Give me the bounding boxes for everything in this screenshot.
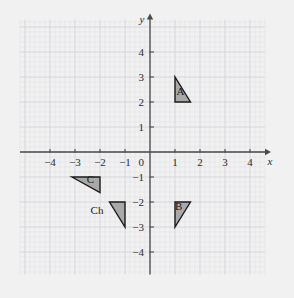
triangle-b-label: B <box>175 200 182 212</box>
y-tick-label--2: −2 <box>132 196 144 208</box>
y-tick-label-4: 4 <box>139 46 145 58</box>
x-axis-name: x <box>267 155 273 167</box>
x-tick-label--4: −4 <box>44 156 56 168</box>
y-tick-label-2: 2 <box>139 96 145 108</box>
y-tick-label-1: 1 <box>139 121 145 133</box>
x-tick-label--3: −3 <box>69 156 81 168</box>
coordinate-plane-svg: −4−3−2−112344321−1−2−3−40 ABC Ch xy <box>0 0 294 298</box>
x-tick-label-1: 1 <box>172 156 178 168</box>
triangle-a-label: A <box>177 85 185 97</box>
x-tick-label-3: 3 <box>222 156 228 168</box>
ch-label: Ch <box>91 204 104 216</box>
coordinate-plane-figure: −4−3−2−112344321−1−2−3−40 ABC Ch xy <box>0 0 294 298</box>
annotation-labels: Ch <box>91 204 104 216</box>
y-tick-label--1: −1 <box>132 171 144 183</box>
triangle-c-label: C <box>87 173 94 185</box>
x-tick-label--2: −2 <box>94 156 106 168</box>
y-tick-label--4: −4 <box>132 246 144 258</box>
origin-label: 0 <box>139 156 145 168</box>
x-tick-label--1: −1 <box>119 156 131 168</box>
y-axis-name: y <box>139 13 145 25</box>
y-tick-label--3: −3 <box>132 221 144 233</box>
x-tick-label-2: 2 <box>197 156 203 168</box>
x-tick-label-4: 4 <box>247 156 253 168</box>
y-tick-label-3: 3 <box>139 71 145 83</box>
